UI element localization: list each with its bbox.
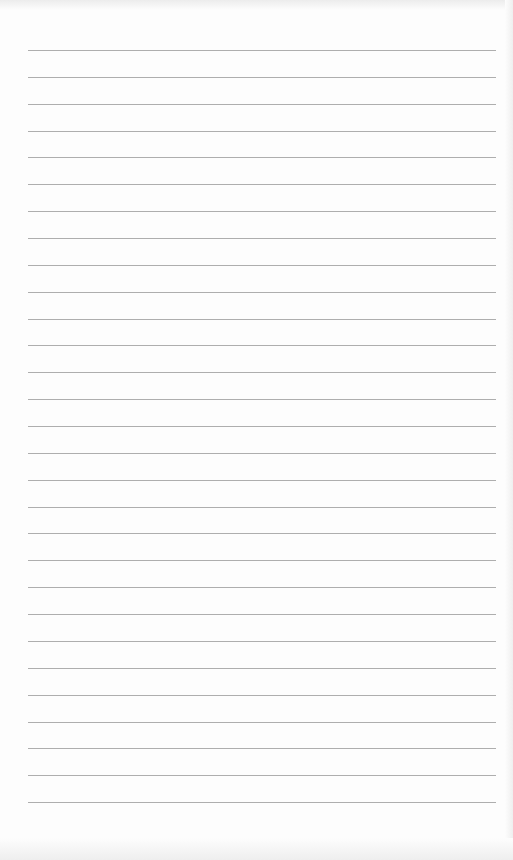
ruled-line xyxy=(28,131,496,132)
ruled-line xyxy=(28,238,496,239)
ruled-line xyxy=(28,480,496,481)
ruled-line xyxy=(28,722,496,723)
ruled-line xyxy=(28,184,496,185)
paper-right-edge xyxy=(505,0,513,860)
ruled-line xyxy=(28,426,496,427)
ruled-line xyxy=(28,668,496,669)
ruled-line xyxy=(28,399,496,400)
ruled-line xyxy=(28,453,496,454)
ruled-line xyxy=(28,507,496,508)
ruled-line xyxy=(28,695,496,696)
ruled-line xyxy=(28,292,496,293)
ruled-line xyxy=(28,802,496,803)
ruled-line xyxy=(28,104,496,105)
ruled-line xyxy=(28,345,496,346)
ruled-line xyxy=(28,775,496,776)
ruled-line xyxy=(28,587,496,588)
ruled-line xyxy=(28,533,496,534)
ruled-line xyxy=(28,157,496,158)
paper-top-edge xyxy=(0,0,513,10)
ruled-line xyxy=(28,641,496,642)
ruled-line xyxy=(28,77,496,78)
ruled-line xyxy=(28,319,496,320)
ruled-line xyxy=(28,265,496,266)
paper-bottom-edge xyxy=(0,838,513,860)
ruled-line xyxy=(28,560,496,561)
ruled-line xyxy=(28,614,496,615)
ruled-line xyxy=(28,211,496,212)
ruled-line xyxy=(28,372,496,373)
ruled-line xyxy=(28,748,496,749)
ruled-line xyxy=(28,50,496,51)
